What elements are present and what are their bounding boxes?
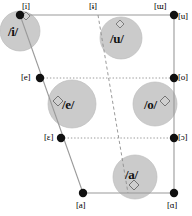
- phoneme-label-u: /u/: [110, 32, 124, 45]
- vertex-label-i: [i]: [22, 2, 30, 11]
- vertex-point-e[interactable]: [36, 74, 44, 82]
- vowel-chart-canvas: [0, 0, 192, 216]
- vertex-point-open-mid-back[interactable]: [170, 134, 178, 142]
- vertex-label-u: [u]: [178, 12, 188, 21]
- vertex-label-epsilon: [ɛ]: [44, 133, 53, 142]
- ipa-vowel-chart: [i] [ɨ] [ɯ] [u] [e] [o] [ɛ] [ɔ] [a] [ɑ] …: [0, 0, 192, 216]
- vertex-point-script-a[interactable]: [170, 189, 178, 197]
- vertex-label-e: [e]: [21, 73, 30, 82]
- vertex-point-u[interactable]: [170, 11, 178, 19]
- vertex-point-i[interactable]: [16, 11, 24, 19]
- phoneme-label-a: /a/: [125, 168, 138, 181]
- vertex-label-o: [o]: [178, 73, 188, 82]
- vertex-label-a: [a]: [76, 201, 85, 210]
- vertex-point-a[interactable]: [79, 189, 87, 197]
- vertex-point-open-mid-front[interactable]: [57, 134, 65, 142]
- vertex-label-script-a: [ɑ]: [167, 201, 177, 210]
- phoneme-label-e: /e/: [62, 98, 74, 111]
- vertex-point-o[interactable]: [170, 74, 178, 82]
- phoneme-label-i: /i/: [8, 25, 18, 38]
- vertex-label-turned-m: [ɯ]: [154, 2, 166, 11]
- phoneme-label-o: /o/: [144, 98, 157, 111]
- vertex-label-barred-i: [ɨ]: [89, 2, 97, 11]
- vertex-label-open-o: [ɔ]: [178, 133, 187, 142]
